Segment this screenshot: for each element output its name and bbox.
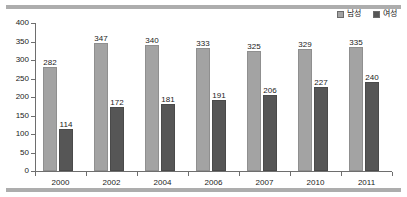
top-divider-rule (6, 5, 401, 9)
bar-male[interactable]: 333 (196, 48, 210, 171)
bar-value-label: 333 (196, 40, 209, 48)
bar-female[interactable]: 191 (212, 100, 226, 171)
bar-value-label: 206 (263, 87, 276, 95)
y-axis-tick-label: 100 (16, 130, 29, 138)
bar-female[interactable]: 240 (365, 82, 379, 171)
legend-swatch-male (337, 11, 344, 18)
x-axis-category-label: 2006 (205, 179, 223, 187)
x-axis-category-label: 2010 (307, 179, 325, 187)
bar-male[interactable]: 347 (94, 43, 108, 171)
bar-female[interactable]: 227 (314, 87, 328, 171)
bar-male[interactable]: 340 (145, 45, 159, 171)
y-axis-tick-label: 50 (20, 149, 29, 157)
x-axis-tick (392, 172, 393, 176)
x-axis-category-label: 2000 (52, 179, 70, 187)
bar-group: 3352402011 (341, 23, 392, 171)
legend-entry[interactable]: 여성 (373, 10, 397, 18)
x-axis-category-label: 2004 (154, 179, 172, 187)
bar-male[interactable]: 335 (349, 47, 363, 171)
bar-value-label: 347 (94, 35, 107, 43)
bar-group: 2821142000 (35, 23, 86, 171)
bar-group: 3471722002 (86, 23, 137, 171)
bar-male[interactable]: 325 (247, 51, 261, 171)
bar-female[interactable]: 172 (110, 107, 124, 171)
y-axis-tick-label: 150 (16, 112, 29, 120)
x-axis-tick (188, 172, 189, 176)
bottom-divider-rule (6, 188, 401, 192)
y-axis-tick-label: 250 (16, 75, 29, 83)
plot-area: 050100150200250300350400 282114200034717… (35, 23, 392, 172)
x-axis-category-label: 2002 (103, 179, 121, 187)
bar-male[interactable]: 282 (43, 67, 57, 171)
x-axis-category-label: 2011 (358, 179, 375, 187)
bar-group: 3401812004 (137, 23, 188, 171)
bar-value-label: 282 (43, 59, 56, 67)
bar-chart-figure: 남성여성 050100150200250300350400 2821142000… (0, 0, 407, 197)
legend-label: 여성 (383, 10, 397, 18)
bar-female[interactable]: 114 (59, 129, 73, 171)
x-axis-tick (86, 172, 87, 176)
legend-label: 남성 (347, 10, 361, 18)
chart-legend: 남성여성 (337, 10, 397, 18)
y-axis-tick-label: 300 (16, 56, 29, 64)
bar-female[interactable]: 206 (263, 95, 277, 171)
bar-value-label: 329 (298, 41, 311, 49)
bar-value-label: 181 (161, 96, 174, 104)
x-axis-category-label: 2007 (256, 179, 274, 187)
bar-value-label: 340 (145, 37, 158, 45)
y-axis-tick-label: 200 (16, 93, 29, 101)
bar-value-label: 335 (349, 39, 362, 47)
x-axis-tick (137, 172, 138, 176)
x-axis-tick (35, 172, 36, 176)
bar-group: 3292272010 (290, 23, 341, 171)
bar-female[interactable]: 181 (161, 104, 175, 171)
bar-value-label: 240 (365, 74, 378, 82)
legend-entry[interactable]: 남성 (337, 10, 361, 18)
bar-value-label: 172 (110, 99, 123, 107)
y-axis-tick-label: 400 (16, 19, 29, 27)
bar-value-label: 191 (212, 92, 225, 100)
bar-male[interactable]: 329 (298, 49, 312, 171)
bar-value-label: 227 (314, 79, 327, 87)
x-axis-tick (341, 172, 342, 176)
bar-group: 3331912006 (188, 23, 239, 171)
bar-value-label: 325 (247, 43, 260, 51)
bar-value-label: 114 (60, 121, 73, 129)
x-axis-tick (290, 172, 291, 176)
y-axis-tick-label: 350 (16, 38, 29, 46)
x-axis-line (35, 171, 392, 172)
bar-group: 3252062007 (239, 23, 290, 171)
y-axis-tick-label: 0 (25, 167, 29, 175)
x-axis-tick (239, 172, 240, 176)
legend-swatch-female (373, 11, 380, 18)
